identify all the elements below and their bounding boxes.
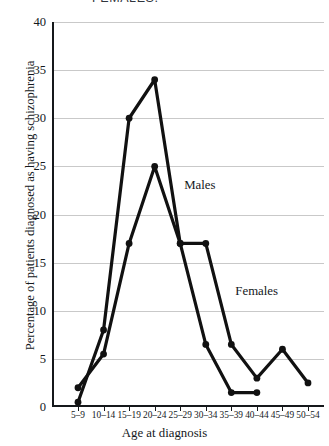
y-axis-tick-label: 35 [24,64,46,76]
data-point-females [202,240,209,247]
data-point-females [75,384,82,391]
data-point-males [253,389,260,396]
y-axis-tick-labels: 0510152025303540 [14,0,46,446]
series-label-females: Females [235,284,278,299]
data-point-females [305,380,312,387]
data-point-females [177,240,184,247]
caption-fragment: FEMALES. [0,0,329,9]
plot-area: MalesFemales [52,22,324,407]
data-point-males [228,389,235,396]
y-axis-tick-label: 20 [24,209,46,221]
caption-text: FEMALES. [92,0,159,5]
x-axis-tick-label: 50–54 [288,410,328,421]
data-point-females [100,351,107,358]
y-axis-tick-label: 15 [24,257,46,269]
data-point-males [151,76,158,83]
data-point-males [202,341,209,348]
data-point-females [253,375,260,382]
x-axis-title: Age at diagnosis [0,426,329,441]
x-axis-tick-labels: 5–910–1415–1920–2425–2930–3435–3940–4445… [52,410,324,424]
y-axis-tick-label: 5 [24,353,46,365]
series-label-males: Males [184,178,215,193]
y-axis-tick-label: 25 [24,160,46,172]
series-layer [52,22,324,407]
data-point-males [75,399,82,406]
y-axis-tick-label: 0 [24,401,46,413]
figure-schizophrenia-age-at-diagnosis: FEMALES. Percentage of patients diagnose… [0,0,329,446]
data-point-females [228,341,235,348]
data-point-females [126,240,133,247]
data-point-females [279,346,286,353]
y-axis-tick-label: 30 [24,112,46,124]
data-point-females [151,163,158,170]
y-axis-tick-label: 40 [24,16,46,28]
data-point-males [100,327,107,334]
data-point-males [126,115,133,122]
series-line-females [78,166,308,387]
y-axis-tick-label: 10 [24,305,46,317]
